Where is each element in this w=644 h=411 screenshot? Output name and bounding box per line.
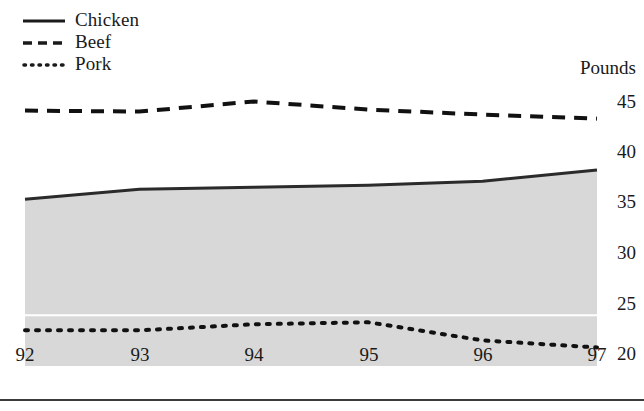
x-tick-96: 96 xyxy=(474,345,493,364)
x-tick-92: 92 xyxy=(16,345,35,364)
y-tick-35: 35 xyxy=(617,192,636,211)
y-tick-25: 25 xyxy=(617,294,636,313)
legend-label-pork: Pork xyxy=(75,54,111,73)
chart-legend: Chicken Beef Pork xyxy=(22,8,222,74)
y-axis-units-label: Pounds xyxy=(580,58,636,77)
legend-label-chicken: Chicken xyxy=(75,10,139,29)
legend-item-beef[interactable]: Beef xyxy=(22,30,222,52)
y-tick-40: 40 xyxy=(617,142,636,161)
legend-item-chicken[interactable]: Chicken xyxy=(22,8,222,30)
legend-swatch-dotted-icon xyxy=(22,57,66,69)
y-tick-30: 30 xyxy=(617,243,636,262)
chicken-area-fill xyxy=(25,170,597,366)
x-tick-93: 93 xyxy=(131,345,150,364)
beef-line xyxy=(25,102,597,119)
y-tick-20: 20 xyxy=(617,344,636,363)
y-tick-45: 45 xyxy=(617,92,636,111)
x-tick-97: 97 xyxy=(588,345,607,364)
legend-label-beef: Beef xyxy=(75,32,111,51)
x-tick-95: 95 xyxy=(360,345,379,364)
legend-swatch-solid-icon xyxy=(22,13,66,25)
x-tick-94: 94 xyxy=(245,345,264,364)
chart-figure: Chicken Beef Pork Pounds 45 40 35 30 25 … xyxy=(0,0,644,411)
bottom-rule-divider xyxy=(0,399,644,401)
legend-item-pork[interactable]: Pork xyxy=(22,52,222,74)
legend-swatch-dashed-icon xyxy=(22,35,66,47)
